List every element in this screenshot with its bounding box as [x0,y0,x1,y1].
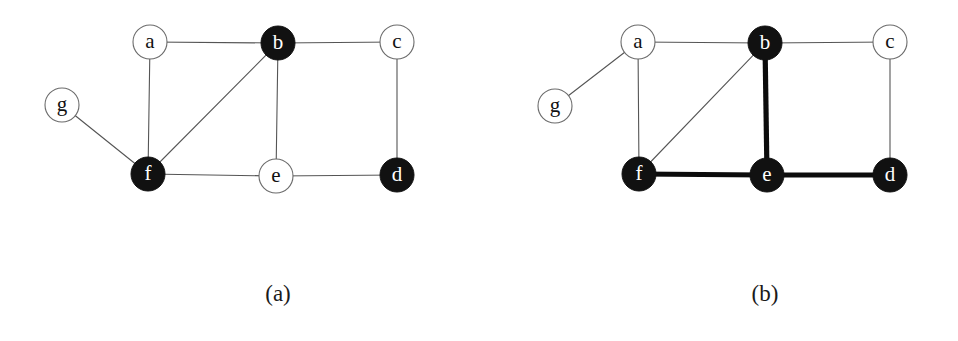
graph-edge-b-c [765,42,890,43]
panel-b-nodes: abcdefg [538,25,907,192]
panel-b-edges [555,42,890,175]
graph-node-c: c [873,25,907,59]
graph-node-g: g [45,88,79,122]
graph-edge-e-d [276,175,397,176]
graph-node-e: e [750,158,784,192]
node-label-c: c [392,29,401,53]
graph-node-a: a [621,25,655,59]
node-label-d: d [392,162,403,186]
graph-canvas: abcdefgabcdefg [0,0,958,341]
figure-root: abcdefgabcdefg (a) (b) [0,0,958,341]
graph-edge-b-c [278,42,397,43]
panel-a-edges [62,42,397,176]
graph-node-a: a [133,25,167,59]
node-label-e: e [271,163,280,187]
panel-a-caption: (a) [238,282,318,305]
graph-node-f: f [131,157,165,191]
graph-edge-a-f [638,42,639,174]
node-label-b: b [760,30,771,54]
graph-node-b: b [261,26,295,60]
node-label-f: f [636,161,643,185]
graph-edge-f-e [148,174,276,176]
panel-a-nodes: abcdefg [45,25,414,193]
graph-edge-a-b [150,42,278,43]
graph-edge-b-f [639,43,765,174]
panel-b-caption: (b) [725,282,805,305]
graph-node-e: e [259,159,293,193]
graph-node-d: d [380,158,414,192]
graph-edge-b-e [765,43,767,175]
graph-node-d: d [873,158,907,192]
node-label-a: a [633,29,643,53]
graph-node-g: g [538,89,572,123]
graph-node-b: b [748,26,782,60]
graph-edge-a-b [638,42,765,43]
graph-edge-f-e [639,174,767,175]
graph-edge-b-e [276,43,278,176]
graph-edge-a-f [148,42,150,174]
node-label-b: b [273,30,284,54]
node-label-e: e [762,162,771,186]
node-label-f: f [145,161,152,185]
graph-node-c: c [380,25,414,59]
node-label-d: d [885,162,896,186]
node-label-g: g [550,93,561,117]
node-label-g: g [57,92,68,116]
graph-edge-b-f [148,43,278,174]
node-label-a: a [145,29,155,53]
node-label-c: c [885,29,894,53]
graph-node-f: f [622,157,656,191]
